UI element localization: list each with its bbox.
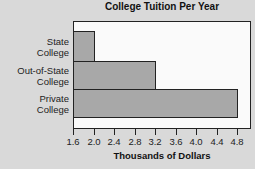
bar-private-college — [73, 89, 238, 118]
x-axis-label: Thousands of Dollars — [73, 150, 251, 161]
category-label: StateCollege — [37, 36, 69, 58]
bar-state-college — [73, 31, 95, 62]
x-tick — [155, 129, 156, 135]
bar-out-of-state-college — [73, 61, 156, 90]
x-tick — [73, 129, 74, 135]
x-tick — [114, 129, 115, 135]
x-tick — [237, 129, 238, 135]
x-tick — [196, 129, 197, 135]
x-tick-label: 4.8 — [225, 136, 249, 147]
x-tick — [176, 129, 177, 135]
x-tick — [94, 129, 95, 135]
category-label: Out-of-StateCollege — [17, 65, 69, 87]
category-label: PrivateCollege — [37, 93, 69, 115]
x-tick — [217, 129, 218, 135]
chart-title: College Tuition Per Year — [73, 1, 251, 12]
x-tick — [135, 129, 136, 135]
